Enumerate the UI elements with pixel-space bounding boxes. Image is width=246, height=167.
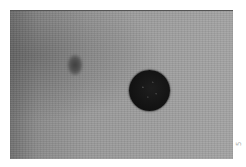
margin-figure-mark: 5 [236,142,243,146]
large-dark-spot [129,70,170,111]
photograph [10,10,233,159]
surface-texture [10,11,233,159]
small-faint-spot [67,54,83,76]
